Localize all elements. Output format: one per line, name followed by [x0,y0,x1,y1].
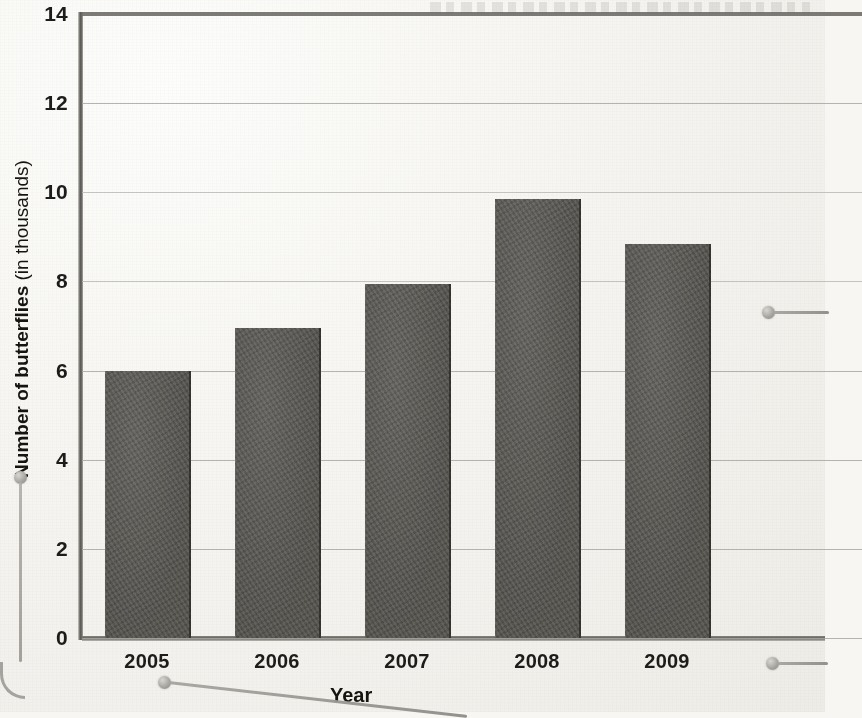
gridline-14 [82,12,862,16]
y-axis-tick-labels: 02468101214 [0,0,68,652]
x-tick-2009-callout-line [778,662,828,665]
x-tick-2006: 2006 [222,650,332,673]
gridline-4 [82,460,862,461]
y-tick-10: 10 [22,180,68,204]
gridline-8 [82,281,862,282]
bar-2007 [365,284,451,638]
y-tick-12: 12 [22,91,68,115]
x-tick-2007: 2007 [352,650,462,673]
x-tick-2009: 2009 [612,650,722,673]
gridline-10 [82,192,862,193]
y-tick-8: 8 [22,269,68,293]
gridline-12 [82,103,862,104]
y-tick-6: 6 [22,358,68,382]
x-tick-2005: 2005 [92,650,202,673]
bar-2008 [495,199,581,638]
gridline-2 [82,549,862,550]
bar-2005 [105,371,191,638]
plot-area [82,14,862,638]
gridline-0 [82,638,862,639]
y-tick-4: 4 [22,447,68,471]
bar-2009-callout-line [774,311,829,314]
y-tick-2: 2 [22,536,68,560]
x-tick-2008: 2008 [482,650,592,673]
bar-2009 [625,244,711,638]
y-tick-0: 0 [22,626,68,650]
bar-2006 [235,328,321,638]
y-tick-14: 14 [22,2,68,26]
gridline-6 [82,371,862,372]
y-axis-callout-line [19,482,22,662]
